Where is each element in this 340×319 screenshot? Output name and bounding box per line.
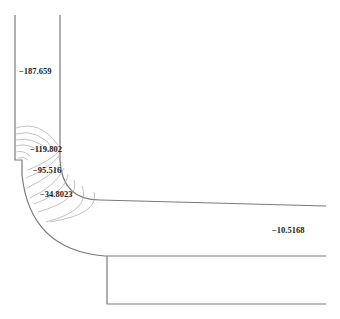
contour-label-outlet: −10.5168 [272, 225, 304, 235]
contour-plot [0, 0, 340, 319]
inner-wall [60, 15, 326, 206]
contour-label-corner-outer: −34.8023 [40, 189, 72, 199]
lower-block [107, 256, 326, 304]
contour-label-corner-mid: −95.516 [33, 165, 61, 175]
contour-label-corner-inner: −119.802 [30, 144, 62, 154]
contour-label-inlet: −187.659 [19, 66, 51, 76]
